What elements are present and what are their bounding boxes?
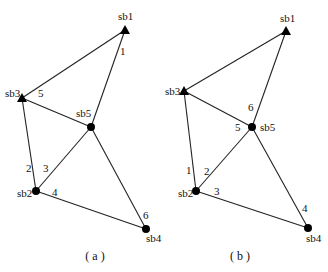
node-label-sb3: sb3 <box>165 85 181 97</box>
edge-label: 2 <box>204 165 210 177</box>
node-label-sb5: sb5 <box>76 107 92 119</box>
edge-sb3-sb5 <box>184 91 252 127</box>
edge-label: 1 <box>120 45 126 57</box>
edge-sb5-sb2 <box>196 127 252 191</box>
figure-a: 152346sb1sb3sb5sb2sb4( a ) <box>5 10 162 263</box>
edge-sb5-sb4 <box>91 127 146 229</box>
edge-label: 4 <box>302 202 308 214</box>
node-label-sb2: sb2 <box>17 187 32 199</box>
edge-sb1-sb3 <box>184 31 286 91</box>
node-label-sb4: sb4 <box>306 232 322 244</box>
edge-label: 2 <box>26 162 32 174</box>
edge-label: 5 <box>38 87 44 99</box>
edge-sb2-sb4 <box>196 191 308 228</box>
edge-label: 5 <box>235 121 241 133</box>
figure-caption-a: ( a ) <box>85 249 104 263</box>
figure-b: 651234sb1sb3sb5sb2sb4( b ) <box>165 12 322 263</box>
network-diagram: 152346sb1sb3sb5sb2sb4( a ) 651234sb1sb3s… <box>0 0 328 272</box>
edge-sb3-sb2 <box>22 98 36 191</box>
figure-caption-b: ( b ) <box>230 249 250 263</box>
edge-label: 1 <box>186 164 192 176</box>
circle-node-icon <box>248 123 256 131</box>
circle-node-icon <box>32 187 40 195</box>
node-label-sb5: sb5 <box>260 121 276 133</box>
edge-label: 6 <box>248 101 254 113</box>
node-label-sb3: sb3 <box>5 87 21 99</box>
edge-sb1-sb5 <box>252 31 286 127</box>
node-label-sb2: sb2 <box>178 187 193 199</box>
triangle-node-icon <box>281 26 291 35</box>
triangle-node-icon <box>179 86 189 95</box>
edge-sb3-sb2 <box>184 91 196 191</box>
circle-node-icon <box>87 123 95 131</box>
node-label-sb1: sb1 <box>280 12 295 24</box>
edge-label: 4 <box>52 186 58 198</box>
edge-sb5-sb2 <box>36 127 91 191</box>
edge-label: 3 <box>214 185 220 197</box>
node-label-sb1: sb1 <box>118 10 133 22</box>
triangle-node-icon <box>120 25 130 34</box>
circle-node-icon <box>304 224 312 232</box>
edge-label: 3 <box>43 162 49 174</box>
node-label-sb4: sb4 <box>146 232 162 244</box>
edge-label: 6 <box>143 209 149 221</box>
